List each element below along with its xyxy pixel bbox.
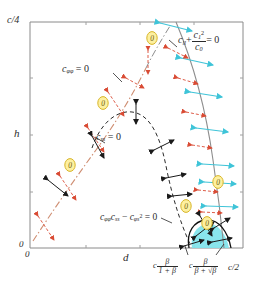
x-axis-right-label: c/2 [228,263,239,272]
svg-text:0: 0 [68,161,72,170]
x-axis-origin-label: 0 [25,250,30,259]
y-axis-top-label: c/4 [7,15,19,25]
svg-text:0: 0 [150,34,154,43]
svg-text:0: 0 [101,99,105,108]
label-determinant-zero: cφφcss − cφs2 = 0 [100,213,157,223]
c-ll-fraction: c12c0 [192,30,207,52]
label-c-phiphi-zero: cφφ = 0 [62,64,89,75]
x-axis-label: d [123,252,129,263]
frac-den-sub: 0 [200,45,203,52]
c-ss-sub: ss [100,135,105,142]
tick1-fraction: ββ + √β [193,258,219,275]
tick0-fraction: β1 + β [157,258,178,275]
tick1-den: β + √β [193,267,219,275]
c-ss-eq: = 0 [108,131,121,142]
c-ll-eq: = 0 [206,34,219,45]
det-t3-sup: 2 [139,213,142,219]
tick0-den: 1 + β [157,267,178,275]
phase-diagram-figure: 0 0 0 0 0 0 c/4 h 0 0 d c/2 cφφ = 0 css … [0,0,258,292]
frac-num-sup: 2 [201,29,204,36]
zero-marker-label: 0 0 0 0 0 0 [68,34,220,228]
det-minus: − [122,212,127,222]
zero-marker [65,32,223,230]
y-axis-label: h [14,128,20,139]
c-phiphi-eq: = 0 [76,63,89,74]
y-axis-origin-label: 0 [19,240,24,249]
label-c-ll-formula: cll+c12c0= 0 [178,30,219,52]
label-c-ss-zero: css = 0 [96,132,121,143]
bottom-tick-beta-sqrtbeta: cββ + √β [189,258,218,275]
c-phiphi-sub: φφ [66,67,73,74]
det-t2-sub: ss [115,216,120,222]
svg-text:0: 0 [216,178,220,187]
det-eq: = 0 [145,212,157,222]
c-ll-frac-den: c0 [192,42,207,53]
bottom-tick-beta-1plusbeta: cβ1 + β [153,258,178,275]
svg-text:0: 0 [205,219,209,228]
svg-text:0: 0 [184,202,188,211]
